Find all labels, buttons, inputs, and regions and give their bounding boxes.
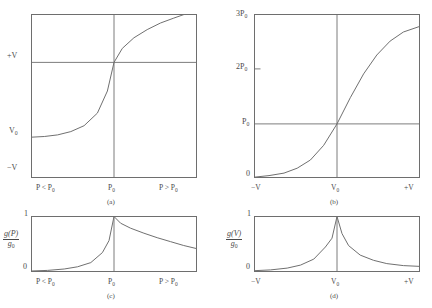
panel-d-xlabel-mid: V0 bbox=[331, 278, 339, 287]
panel-c-ylabel-fraction: g(P) g0 bbox=[3, 230, 19, 249]
panel-a-tag: (a) bbox=[107, 198, 115, 206]
panel-b-xlabel-right: +V bbox=[404, 184, 414, 192]
panel-d-ylabel-top: 1 bbox=[247, 210, 251, 218]
panel-d-ylabel-zero: 0 bbox=[246, 263, 250, 271]
panel-b-ylabel-mid: P0 bbox=[242, 118, 249, 127]
panel-c-ylabel-top: 1 bbox=[24, 210, 28, 218]
panel-d-xlabel-left: −V bbox=[251, 278, 261, 286]
panel-b-plot bbox=[254, 14, 420, 178]
panel-c-ylabel-zero: 0 bbox=[23, 263, 27, 271]
panel-b-xlabel-mid: V0 bbox=[331, 184, 339, 193]
panel-c-xlabel-mid: P0 bbox=[108, 278, 115, 287]
panel-c-fraction-denominator: g0 bbox=[3, 240, 19, 249]
panel-d-xlabel-right: +V bbox=[404, 278, 414, 286]
panel-d-tag: (d) bbox=[330, 292, 338, 300]
panel-d-plot bbox=[254, 216, 420, 272]
panel-c-fraction-numerator: g(P) bbox=[3, 230, 19, 238]
panel-a-xlabel-right: P > P0 bbox=[159, 184, 178, 193]
panel-a-ylabel-mid: V0 bbox=[9, 127, 18, 136]
panel-c-plot bbox=[31, 216, 197, 272]
panel-c-tag: (c) bbox=[107, 292, 115, 300]
panel-c-xlabel-right: P > P0 bbox=[159, 278, 178, 287]
panel-a-plot bbox=[31, 14, 197, 178]
panel-b-ylabel-upper-mid: 2P0 bbox=[236, 63, 247, 72]
panel-a-ylabel-top: +V bbox=[7, 52, 17, 60]
panel-b: 3P0 2P0 P0 0 −V V0 +V (b) bbox=[254, 14, 420, 178]
panel-c-xlabel-left: P < P0 bbox=[36, 278, 55, 287]
panel-b-ylabel-top: 3P0 bbox=[236, 10, 247, 19]
panel-a: +V V0 −V P < P0 P0 P > P0 (a) bbox=[31, 14, 197, 178]
panel-d-fraction-numerator: g(V) bbox=[226, 230, 242, 238]
panel-b-xlabel-left: −V bbox=[251, 184, 261, 192]
figure-root: +V V0 −V P < P0 P0 P > P0 (a) 3P0 2P0 P0… bbox=[0, 0, 432, 308]
panel-c: 1 0 g(P) g0 P < P0 P0 P > P0 (c) bbox=[31, 216, 197, 272]
panel-a-xlabel-mid: P0 bbox=[108, 184, 115, 193]
panel-d-ylabel-fraction: g(V) g0 bbox=[226, 230, 242, 249]
panel-d-fraction-denominator: g0 bbox=[226, 240, 242, 249]
panel-a-ylabel-bottom: −V bbox=[7, 164, 17, 172]
panel-d: 1 0 g(V) g0 −V V0 +V (d) bbox=[254, 216, 420, 272]
panel-a-xlabel-left: P < P0 bbox=[36, 184, 55, 193]
panel-b-ylabel-zero: 0 bbox=[246, 170, 250, 178]
panel-b-tag: (b) bbox=[330, 198, 338, 206]
